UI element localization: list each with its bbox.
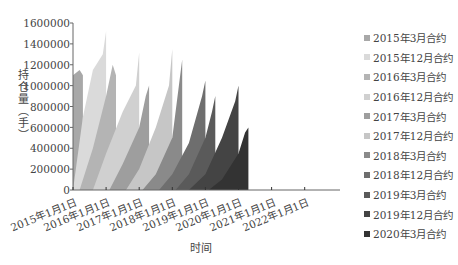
legend-label: 2018年3月合约 [373,148,446,163]
legend-item: 2019年12月合约 [364,204,453,224]
legend-swatch [364,113,370,119]
y-tick-label: 1600000 [23,17,70,29]
legend-swatch [364,94,370,100]
y-tick-label: 1000000 [23,80,70,92]
legend-item: 2016年12月合约 [364,87,453,107]
legend: 2015年3月合约 2015年12月合约 2016年3月合约 2016年12月合… [364,28,453,244]
legend-item: 2017年3月合约 [364,106,453,126]
legend-label: 2016年3月合约 [373,69,446,84]
legend-swatch [364,133,370,139]
legend-label: 2015年12月合约 [373,50,453,65]
legend-swatch [364,74,370,80]
legend-swatch [364,192,370,198]
legend-label: 2017年3月合约 [373,109,446,124]
legend-item: 2017年12月合约 [364,126,453,146]
legend-swatch [364,152,370,158]
y-tick-label: 800000 [30,101,70,113]
legend-label: 2020年3月合约 [373,226,446,241]
legend-item: 2020年3月合约 [364,224,453,244]
legend-swatch [364,54,370,60]
legend-label: 2018年12月合约 [373,167,453,182]
y-tick-label: 400000 [30,142,70,154]
legend-item: 2016年3月合约 [364,67,453,87]
legend-item: 2018年12月合约 [364,165,453,185]
legend-label: 2019年12月合约 [373,207,453,222]
y-tick-label: 200000 [30,163,70,175]
legend-label: 2016年12月合约 [373,89,453,104]
legend-swatch [364,231,370,237]
plot-areas [73,31,248,190]
legend-label: 2015年3月合约 [373,30,446,45]
x-axis-label: 时间 [190,239,212,255]
legend-label: 2019年3月合约 [373,187,446,202]
legend-item: 2019年3月合约 [364,185,453,205]
legend-swatch [364,35,370,41]
legend-item: 2015年3月合约 [364,28,453,48]
legend-label: 2017年12月合约 [373,128,453,143]
y-tick-label: 1400000 [23,38,70,50]
legend-swatch [364,211,370,217]
legend-swatch [364,172,370,178]
y-tick-label: 0 [63,184,70,196]
legend-item: 2018年3月合约 [364,146,453,166]
y-tick-label: 1200000 [23,59,70,71]
y-tick-label: 600000 [30,122,70,134]
legend-item: 2015年12月合约 [364,48,453,68]
